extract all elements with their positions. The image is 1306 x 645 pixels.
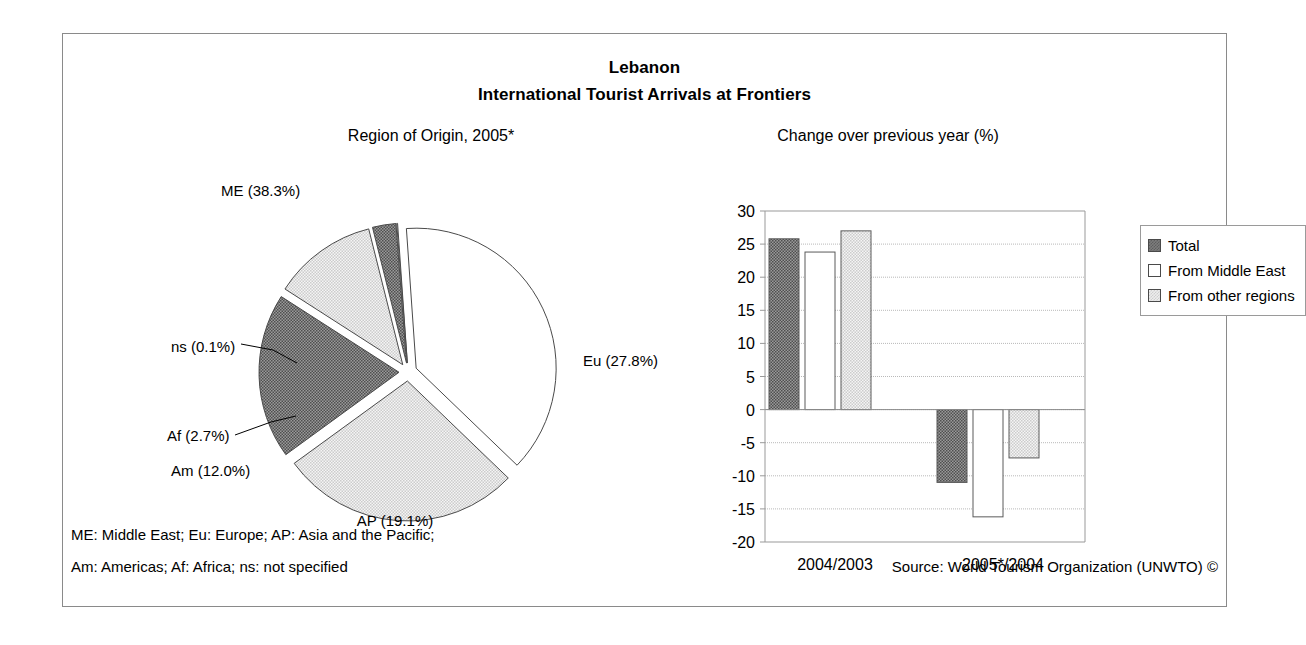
legend-item[interactable]: From other regions	[1148, 283, 1295, 308]
pie-slice-label: ns (0.1%)	[171, 338, 235, 355]
bar[interactable]	[937, 410, 967, 483]
bar[interactable]	[841, 231, 871, 410]
y-axis-tick-label: 20	[737, 269, 755, 286]
legend-label: From other regions	[1168, 287, 1295, 304]
abbreviation-note-line-2: Am: Americas; Af: Africa; ns: not specif…	[71, 558, 348, 575]
legend-item[interactable]: Total	[1148, 233, 1295, 258]
pie-chart-svg: ME (38.3%)Eu (27.8%)AP (19.1%)Am (12.0%)…	[163, 144, 683, 544]
bar[interactable]	[1009, 410, 1039, 458]
y-axis-tick-label: -20	[732, 534, 755, 551]
y-axis-tick-label: 25	[737, 236, 755, 253]
y-axis-tick-label: -5	[741, 435, 755, 452]
legend-label: Total	[1168, 237, 1200, 254]
bar-panel-title: Change over previous year (%)	[683, 127, 1093, 145]
y-axis-tick-label: -15	[732, 501, 755, 518]
pie-slice-label: Am (12.0%)	[171, 462, 250, 479]
chart-title-main: Lebanon	[63, 58, 1226, 78]
pie-chart: ME (38.3%)Eu (27.8%)AP (19.1%)Am (12.0%)…	[163, 144, 683, 544]
y-axis-tick-label: 15	[737, 302, 755, 319]
pie-slice-label: Af (2.7%)	[167, 427, 230, 444]
x-axis-category-label: 2004/2003	[797, 556, 873, 573]
abbreviation-note-line-1: ME: Middle East; Eu: Europe; AP: Asia an…	[71, 526, 435, 543]
y-axis-tick-label: 10	[737, 335, 755, 352]
bar[interactable]	[805, 252, 835, 410]
pie-slices	[259, 223, 556, 521]
bar-chart-svg: 302520151050-5-10-15-20 2004/20032005*/2…	[703, 174, 1123, 574]
bar-series-group	[769, 231, 1039, 517]
legend-label: From Middle East	[1168, 262, 1286, 279]
chart-frame: Lebanon International Tourist Arrivals a…	[62, 33, 1227, 607]
y-axis-tick-label: -10	[732, 468, 755, 485]
pie-slice-label: Eu (27.8%)	[583, 352, 658, 369]
chart-title-sub: International Tourist Arrivals at Fronti…	[63, 85, 1226, 105]
pie-panel-title: Region of Origin, 2005*	[231, 127, 631, 145]
bar[interactable]	[769, 239, 799, 410]
legend-swatch-other-regions-icon	[1148, 289, 1161, 302]
y-axis-tick-label: 30	[737, 203, 755, 220]
bar-chart: 302520151050-5-10-15-20 2004/20032005*/2…	[703, 174, 1123, 574]
legend-item[interactable]: From Middle East	[1148, 258, 1295, 283]
bar[interactable]	[973, 410, 1003, 517]
legend-swatch-total-icon	[1148, 239, 1161, 252]
y-axis-tick-label: 0	[746, 402, 755, 419]
y-axis-tick-labels: 302520151050-5-10-15-20	[732, 203, 755, 551]
source-note: Source: World Tourism Organization (UNWT…	[892, 558, 1218, 575]
bar-chart-legend: Total From Middle East From other region…	[1140, 225, 1306, 316]
legend-swatch-middle-east-icon	[1148, 264, 1161, 277]
pie-slice-label: ME (38.3%)	[221, 182, 300, 199]
y-axis-tick-label: 5	[746, 369, 755, 386]
